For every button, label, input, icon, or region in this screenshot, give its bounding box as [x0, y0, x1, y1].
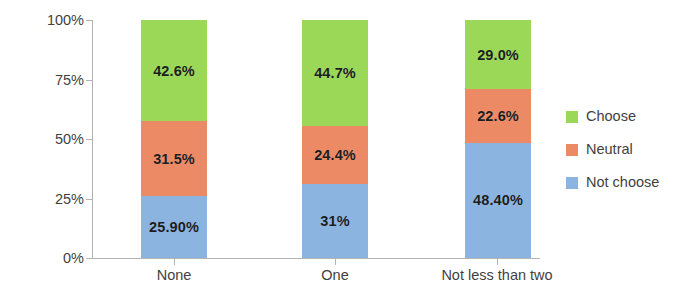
x-category-label-none: None	[157, 268, 192, 284]
bar-value-label: 29.0%	[477, 47, 519, 63]
bar-value-label: 44.7%	[314, 65, 356, 81]
stacked-bar-chart: 100% 75% 50% 25% 0% 42.6% 31.5% 25.90%	[0, 0, 696, 300]
bar-group-none: 42.6% 31.5% 25.90%	[141, 20, 207, 258]
legend-swatch-neutral-icon	[566, 144, 578, 156]
bar-segment-none-not-choose: 25.90%	[141, 196, 207, 258]
x-tick-mark-none	[174, 259, 175, 265]
y-tick-label-50: 50%	[10, 132, 84, 147]
bar-value-label: 48.40%	[473, 192, 523, 208]
bar-segment-none-choose: 42.6%	[141, 20, 207, 121]
x-axis-line	[92, 258, 540, 259]
bar-segment-none-neutral: 31.5%	[141, 121, 207, 196]
bar-segment-not-less-than-two-neutral: 22.6%	[465, 89, 531, 143]
bar-value-label: 31.5%	[153, 151, 195, 167]
x-category-label-one: One	[321, 268, 348, 284]
bar-value-label: 31%	[320, 213, 349, 229]
bar-segment-one-neutral: 24.4%	[302, 126, 368, 184]
y-tick-label-25: 25%	[10, 191, 84, 206]
legend-item-choose[interactable]: Choose	[566, 100, 694, 133]
x-tick-mark-one	[335, 259, 336, 265]
legend-label-neutral: Neutral	[586, 142, 633, 157]
legend-item-not-choose[interactable]: Not choose	[566, 166, 694, 199]
bar-segment-not-less-than-two-choose: 29.0%	[465, 20, 531, 89]
bar-segment-one-not-choose: 31%	[302, 184, 368, 258]
bar-segment-not-less-than-two-not-choose: 48.40%	[465, 143, 531, 258]
y-tick-label-0: 0%	[10, 251, 84, 266]
y-axis-labels: 100% 75% 50% 25% 0%	[0, 0, 84, 300]
legend-swatch-not-choose-icon	[566, 177, 578, 189]
legend: Choose Neutral Not choose	[566, 100, 694, 199]
bar-group-not-less-than-two: 29.0% 22.6% 48.40%	[465, 20, 531, 258]
y-tick-label-75: 75%	[10, 72, 84, 87]
legend-label-not-choose: Not choose	[586, 175, 659, 190]
legend-label-choose: Choose	[586, 109, 636, 124]
plot-area: 42.6% 31.5% 25.90% 44.7% 24.4% 31% 2	[92, 20, 540, 258]
legend-item-neutral[interactable]: Neutral	[566, 133, 694, 166]
x-category-label-not-less-than-two: Not less than two	[441, 268, 552, 284]
bar-group-one: 44.7% 24.4% 31%	[302, 20, 368, 258]
bar-value-label: 42.6%	[153, 63, 195, 79]
bar-value-label: 24.4%	[314, 147, 356, 163]
y-tick-label-100: 100%	[10, 13, 84, 28]
bar-value-label: 25.90%	[149, 219, 199, 235]
bar-value-label: 22.6%	[477, 108, 519, 124]
bar-segment-one-choose: 44.7%	[302, 20, 368, 126]
x-tick-mark-not-less-than-two	[497, 259, 498, 265]
legend-swatch-choose-icon	[566, 111, 578, 123]
